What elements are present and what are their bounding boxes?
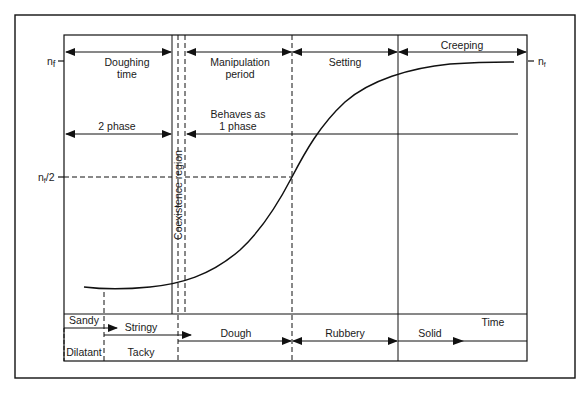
stage-sandy: Sandy — [69, 314, 100, 326]
stage-solid: Solid — [418, 327, 442, 339]
chart-frame — [64, 35, 527, 361]
dough-phase-diagram: nf nf/2 nf Doughing time Manipulation pe… — [0, 0, 585, 403]
two-phase-label: 2 phase — [98, 120, 136, 132]
stage-dough: Dough — [221, 327, 252, 339]
one-phase-label-1: Behaves as — [211, 108, 266, 120]
doughing-label-2: time — [117, 68, 137, 80]
viscosity-curve — [84, 62, 514, 289]
stage-tacky: Tacky — [128, 346, 156, 358]
one-phase-label-2: 1 phase — [219, 120, 257, 132]
nf-half-label: nf/2 — [38, 171, 55, 184]
coexistence-label: Coexistence region — [172, 150, 184, 240]
stage-dilatant: Dilatant — [66, 346, 102, 358]
setting-label: Setting — [329, 56, 362, 68]
solid-arrowhead — [453, 337, 464, 345]
nf-label-right: nf — [538, 55, 546, 68]
manipulation-label-2: period — [225, 68, 254, 80]
doughing-label-1: Doughing — [105, 56, 150, 68]
manipulation-label-1: Manipulation — [210, 56, 270, 68]
stage-rubbery: Rubbery — [325, 327, 365, 339]
creeping-label: Creeping — [441, 39, 484, 51]
nf-label-left: nf — [47, 55, 56, 69]
stage-stringy: Stringy — [125, 321, 158, 333]
time-axis-label: Time — [482, 316, 505, 328]
